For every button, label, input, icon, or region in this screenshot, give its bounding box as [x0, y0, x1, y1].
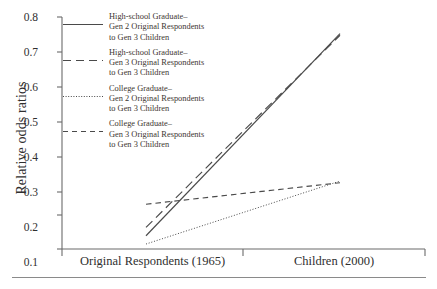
figure-bottom-rule	[12, 277, 426, 278]
x-tick-label-original-respondents: Original Respondents (1965)	[62, 254, 243, 269]
legend-swatch-dotted-icon	[63, 95, 103, 97]
chart-legend: High-school Graduate– Gen 2 Original Res…	[63, 12, 238, 155]
legend-label: College Graduate– Gen 3 Original Respond…	[109, 119, 238, 150]
series-line	[146, 183, 340, 205]
chart-figure: Relative odds ratios 0.8 0.7 0.6 0.5 0.4…	[0, 0, 437, 289]
legend-label: High-school Graduate– Gen 3 Original Res…	[109, 48, 238, 79]
legend-label: College Graduate– Gen 2 Original Respond…	[109, 84, 238, 115]
x-tick-label-children: Children (2000)	[243, 254, 425, 269]
legend-swatch-solid-icon	[63, 23, 103, 25]
legend-entry-college-gen2: College Graduate– Gen 2 Original Respond…	[63, 84, 238, 115]
legend-entry-hs-gen3: High-school Graduate– Gen 3 Original Res…	[63, 48, 238, 79]
y-tick-marks	[57, 17, 62, 249]
legend-label: High-school Graduate– Gen 2 Original Res…	[109, 12, 238, 43]
legend-entry-college-gen3: College Graduate– Gen 3 Original Respond…	[63, 119, 238, 150]
legend-entry-hs-gen2: High-school Graduate– Gen 2 Original Res…	[63, 12, 238, 43]
legend-swatch-dashed-icon	[63, 130, 103, 132]
legend-swatch-long-dash-icon	[63, 59, 103, 61]
series-line	[146, 181, 340, 244]
